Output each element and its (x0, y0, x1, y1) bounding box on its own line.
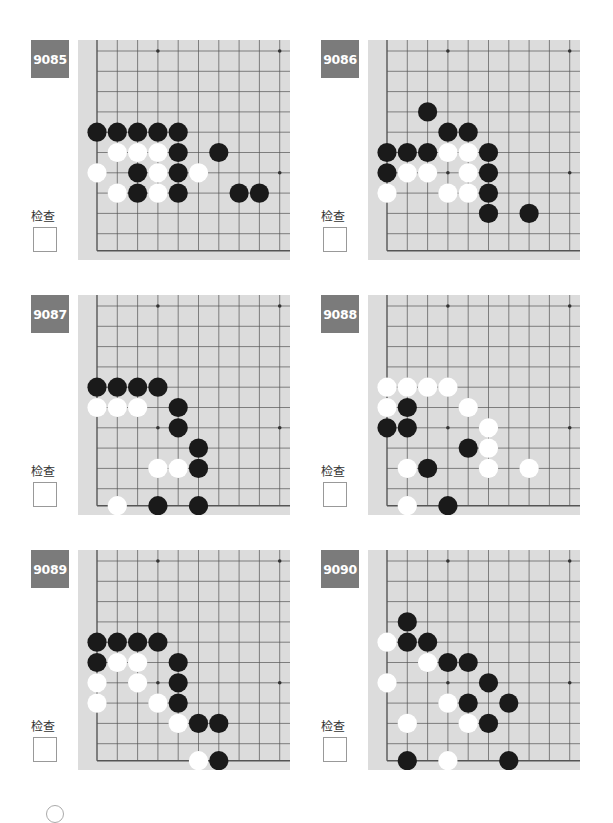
white-stone (189, 163, 208, 182)
black-stone (169, 143, 188, 162)
black-stone (128, 123, 147, 142)
black-stone (169, 418, 188, 437)
check-box[interactable] (33, 482, 57, 507)
white-stone (459, 398, 478, 417)
white-stone (108, 496, 127, 515)
black-stone (148, 496, 167, 515)
white-stone (438, 143, 457, 162)
white-stone (108, 653, 127, 672)
go-board (78, 295, 290, 515)
white-stone (148, 163, 167, 182)
black-stone (459, 123, 478, 142)
white-stone (418, 653, 437, 672)
black-stone (418, 143, 437, 162)
black-stone (189, 439, 208, 458)
white-stone (148, 459, 167, 478)
black-stone (479, 714, 498, 733)
black-stone (87, 653, 106, 672)
black-stone (377, 143, 396, 162)
black-stone (209, 143, 228, 162)
white-stone (418, 378, 437, 397)
problem-number-badge: 9089 (31, 550, 69, 588)
check-box[interactable] (323, 737, 347, 762)
page-marker-icon (46, 805, 64, 823)
white-stone (169, 714, 188, 733)
white-stone (377, 184, 396, 203)
problem-number-badge: 9090 (321, 550, 359, 588)
white-stone (398, 378, 417, 397)
problem-number-badge: 9088 (321, 295, 359, 333)
problem-number-badge: 9087 (31, 295, 69, 333)
check-label: 检查 (31, 717, 61, 734)
black-stone (169, 653, 188, 672)
black-stone (148, 123, 167, 142)
white-stone (87, 163, 106, 182)
black-stone (169, 184, 188, 203)
black-stone (398, 751, 417, 770)
white-stone (377, 398, 396, 417)
black-stone (209, 714, 228, 733)
black-stone (479, 204, 498, 223)
check-box[interactable] (323, 482, 347, 507)
white-stone (438, 751, 457, 770)
check-box[interactable] (33, 737, 57, 762)
black-stone (377, 163, 396, 182)
problem-number-badge: 9086 (321, 40, 359, 78)
black-stone (189, 459, 208, 478)
problem-9086: 9086检查 (315, 35, 575, 260)
go-board (368, 40, 580, 260)
white-stone (377, 378, 396, 397)
black-stone (128, 378, 147, 397)
black-stone (499, 751, 518, 770)
check-box[interactable] (33, 227, 57, 252)
black-stone (479, 184, 498, 203)
white-stone (398, 163, 417, 182)
white-stone (438, 378, 457, 397)
white-stone (479, 459, 498, 478)
white-stone (377, 673, 396, 692)
white-stone (479, 439, 498, 458)
black-stone (398, 398, 417, 417)
black-stone (209, 751, 228, 770)
black-stone (230, 184, 249, 203)
problem-9090: 9090检查 (315, 545, 575, 770)
black-stone (479, 143, 498, 162)
black-stone (169, 123, 188, 142)
white-stone (87, 673, 106, 692)
white-stone (108, 143, 127, 162)
problem-9089: 9089检查 (25, 545, 285, 770)
white-stone (108, 184, 127, 203)
black-stone (459, 694, 478, 713)
white-stone (148, 143, 167, 162)
black-stone (418, 102, 437, 121)
black-stone (169, 163, 188, 182)
go-board (78, 40, 290, 260)
black-stone (148, 378, 167, 397)
black-stone (189, 714, 208, 733)
black-stone (87, 378, 106, 397)
problem-9087: 9087检查 (25, 290, 285, 515)
check-label: 检查 (321, 207, 351, 224)
black-stone (87, 633, 106, 652)
black-stone (398, 633, 417, 652)
black-stone (169, 694, 188, 713)
check-box[interactable] (323, 227, 347, 252)
black-stone (108, 378, 127, 397)
white-stone (148, 184, 167, 203)
white-stone (438, 184, 457, 203)
white-stone (520, 459, 539, 478)
white-stone (128, 673, 147, 692)
black-stone (459, 653, 478, 672)
black-stone (438, 123, 457, 142)
white-stone (398, 496, 417, 515)
black-stone (169, 398, 188, 417)
black-stone (148, 633, 167, 652)
white-stone (189, 751, 208, 770)
check-label: 检查 (31, 207, 61, 224)
go-board (368, 550, 580, 770)
white-stone (108, 398, 127, 417)
white-stone (128, 398, 147, 417)
black-stone (398, 612, 417, 631)
black-stone (377, 418, 396, 437)
white-stone (169, 459, 188, 478)
